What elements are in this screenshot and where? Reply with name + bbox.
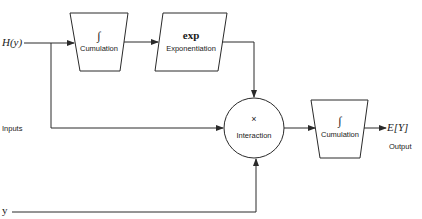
multiply-icon: × [251,115,256,124]
interaction-label: Interaction [236,132,271,140]
integral-icon: ∫ [97,30,100,42]
cumulation-2-block [311,100,368,158]
edge-y-to-interaction [12,159,256,212]
output-label: Output [389,143,412,151]
input-y-label: y [2,205,8,216]
output-value: E[Y] [387,122,408,133]
cumulation-2-label: Cumulation [321,131,359,139]
interaction-node [224,98,284,158]
inputs-label: Inputs [2,125,22,133]
edge-hy-branch-to-interaction [51,43,223,128]
exponentiation-label: Exponentiation [166,45,216,53]
edge-exp-to-interaction [222,42,254,97]
exponentiation-block [155,13,227,71]
integral-icon: ∫ [338,115,341,127]
exp-symbol: exp [183,30,200,41]
block-diagram [0,0,422,219]
input-h-label: H(y) [2,37,22,48]
cumulation-1-label: Cumulation [80,45,118,53]
